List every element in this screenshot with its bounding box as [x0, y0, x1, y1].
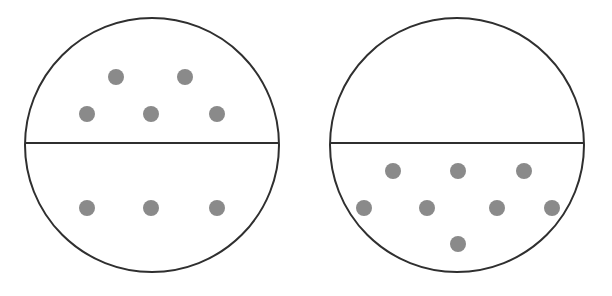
- lower-particle-dot: [356, 200, 372, 216]
- lower-particle-dot: [143, 200, 159, 216]
- lower-particle-dot: [419, 200, 435, 216]
- upper-particle-dot: [177, 69, 193, 85]
- right-circle-outline: [330, 18, 584, 272]
- lower-particle-dot: [209, 200, 225, 216]
- right-container: [330, 18, 584, 272]
- lower-particle-dot: [79, 200, 95, 216]
- upper-particle-dot: [79, 106, 95, 122]
- lower-particle-dot: [385, 163, 401, 179]
- lower-particle-dot: [544, 200, 560, 216]
- left-circle-outline: [25, 18, 279, 272]
- right-dots: [356, 163, 560, 252]
- upper-particle-dot: [108, 69, 124, 85]
- lower-particle-dot: [489, 200, 505, 216]
- lower-particle-dot: [516, 163, 532, 179]
- left-container: [25, 18, 279, 272]
- upper-particle-dot: [143, 106, 159, 122]
- lower-particle-dot: [450, 236, 466, 252]
- diagram-canvas: [0, 0, 612, 296]
- upper-particle-dot: [209, 106, 225, 122]
- lower-particle-dot: [450, 163, 466, 179]
